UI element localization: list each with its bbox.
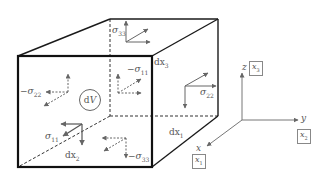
axis-label-z: z — [242, 63, 247, 72]
x-axis — [207, 120, 242, 146]
stress-cube-diagram — [0, 0, 325, 177]
stress-label-sigma33-top: σ33 — [112, 26, 126, 37]
axis-label-y: y — [301, 114, 306, 123]
edge-label-dx2: dx2 — [65, 151, 80, 162]
axis-box-x3: x3 — [249, 61, 263, 76]
stress-label-neg-sigma33-bottom: −σ33 — [128, 152, 149, 163]
coordinate-axes — [207, 73, 298, 146]
edge-label-dx1: dx1 — [169, 128, 184, 139]
edge-label-dx3: dx3 — [154, 58, 169, 69]
stress-label-neg-sigma22-left: −σ22 — [20, 87, 41, 98]
back-face-arrows — [118, 74, 141, 93]
bottom-face-arrows — [102, 138, 126, 158]
top-face-arrows — [126, 21, 150, 42]
volume-element-label: dV — [79, 89, 101, 111]
axis-label-x: x — [196, 144, 201, 153]
stress-label-neg-sigma11-back: −σ11 — [127, 65, 148, 76]
axis-box-x2: x2 — [297, 129, 311, 144]
stress-label-sigma22-right: σ22 — [200, 88, 214, 99]
stress-label-sigma11-front: σ11 — [45, 132, 59, 143]
axis-box-x1: x1 — [192, 154, 206, 169]
left-face-arrows — [44, 74, 68, 106]
